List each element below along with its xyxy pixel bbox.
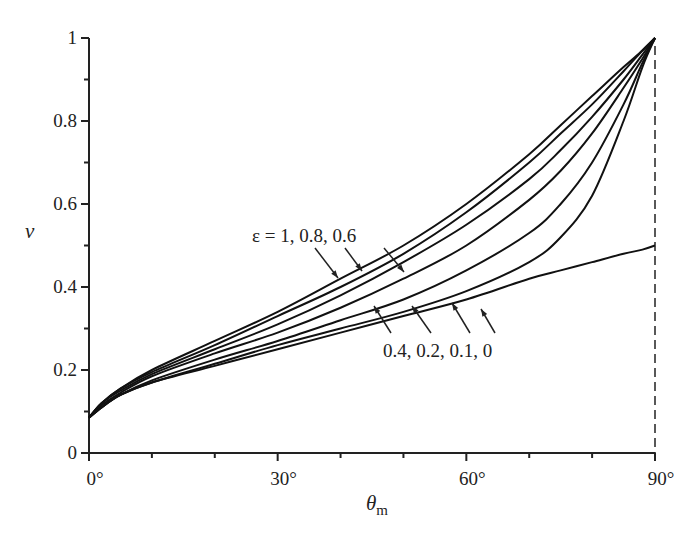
y-tick-label: 1 [68, 27, 78, 48]
axes: 00.20.40.60.810°30°60°90° [53, 27, 674, 489]
y-tick-label: 0.6 [53, 193, 77, 214]
x-tick-label: 60° [459, 468, 486, 489]
x-tick-label: 90° [648, 468, 675, 489]
x-tick-label: 30° [270, 468, 297, 489]
y-tick-label: 0.2 [53, 359, 77, 380]
arrowhead-icon [481, 309, 487, 317]
curve-eps-0.1 [89, 38, 655, 418]
arrowhead-icon [452, 303, 458, 311]
x-axis-label: θm [366, 491, 388, 518]
x-tick-label: 0° [86, 468, 103, 489]
y-tick-label: 0.8 [53, 110, 77, 131]
curves [89, 38, 655, 418]
y-axis-label: v [25, 219, 35, 243]
annotation-epsilon-upper: ε = 1, 0.8, 0.6 [252, 225, 356, 246]
y-tick-label: 0.4 [53, 276, 77, 297]
y-tick-label: 0 [68, 442, 78, 463]
line-chart: 00.20.40.60.810°30°60°90° ε = 1, 0.8, 0.… [0, 0, 699, 543]
annotation-epsilon-lower: 0.4, 0.2, 0.1, 0 [383, 340, 492, 361]
chart-figure: 00.20.40.60.810°30°60°90° ε = 1, 0.8, 0.… [0, 0, 699, 543]
